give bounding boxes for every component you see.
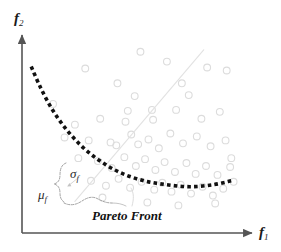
axes-group (22, 35, 252, 233)
scatter-point (222, 137, 229, 144)
scatter-point (183, 160, 190, 167)
scatter-point (204, 64, 211, 71)
scatter-point (151, 186, 158, 193)
sigma-f-annotation-label: σf (70, 166, 79, 183)
mu-brace-path (64, 197, 112, 204)
scatter-point (161, 159, 168, 166)
scatter-point (121, 154, 128, 161)
scatter-point (172, 169, 179, 176)
scatter-point (175, 202, 182, 209)
scatter-point (198, 115, 205, 122)
y-axis-label: f2 (14, 10, 24, 28)
scatter-point (223, 67, 230, 74)
scatter-point (124, 107, 131, 114)
scatter-point (97, 115, 104, 122)
scatter-point (227, 164, 234, 171)
scatter-point (85, 137, 92, 144)
scatter-point (178, 80, 185, 87)
scatter-point (131, 93, 138, 100)
scatter-point (142, 156, 149, 163)
scatter-point (188, 190, 195, 197)
scatter-point (220, 185, 227, 192)
scatter-point (210, 192, 217, 199)
scatter-point (132, 163, 139, 170)
scatter-point (135, 141, 142, 148)
x-axis-label-subscript: 1 (264, 232, 269, 242)
scatter-point (61, 134, 68, 141)
scatter-point (114, 80, 121, 87)
scatter-point (193, 133, 200, 140)
scatter-point (103, 182, 110, 189)
scatter-point (180, 140, 187, 147)
scatter-point (164, 58, 171, 65)
scatter-point (185, 92, 192, 99)
pareto-front-figure: f2 f1 σf μf Pareto Front (0, 0, 281, 252)
scatter-point (115, 175, 122, 182)
scatter-point (216, 108, 223, 115)
scatter-point (144, 199, 151, 206)
scatter-point (167, 130, 174, 137)
scatter-point (203, 163, 210, 170)
sigma-subscript: f (76, 173, 79, 183)
scatter-point (228, 155, 235, 162)
scatter-point (152, 167, 159, 174)
scatter-point (137, 48, 144, 55)
scatter-point (72, 121, 79, 128)
scatter-point (113, 142, 120, 149)
scatter-point (75, 155, 82, 162)
scatter-point (207, 143, 214, 150)
y-axis-label-subscript: 2 (19, 18, 24, 28)
scatter-point (192, 171, 199, 178)
scatter-point (155, 145, 162, 152)
scatter-point (214, 171, 221, 178)
annotation-braces-group (54, 163, 133, 206)
scatter-point (212, 200, 219, 207)
scatter-point (173, 106, 180, 113)
sigma-brace-path (54, 163, 66, 202)
mu-f-annotation-label: μf (38, 187, 47, 204)
mu-subscript: f (45, 194, 48, 204)
scatter-point (122, 118, 129, 125)
scatter-point (150, 116, 157, 123)
mu-tail-line (112, 203, 126, 206)
pareto-front-caption: Pareto Front (92, 208, 162, 224)
scatter-point (82, 65, 89, 72)
scatter-point (168, 188, 175, 195)
scatter-point (145, 136, 152, 143)
x-axis-label: f1 (259, 224, 269, 242)
